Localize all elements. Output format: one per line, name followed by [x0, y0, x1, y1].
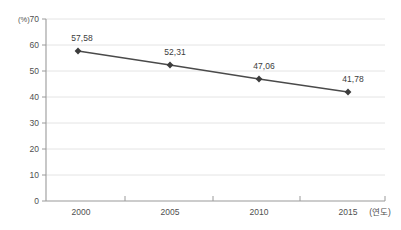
x-tick-label-2015: 2015 [339, 207, 358, 217]
line-chart: (%) 70 60 50 40 30 20 10 0 2000 2005 201… [0, 0, 401, 230]
y-tick-label-70: 70 [30, 14, 40, 24]
x-tick-label-2010: 2010 [250, 207, 269, 217]
chart-background [0, 0, 401, 230]
data-label-2005: 52,31 [164, 47, 186, 57]
y-tick-label-30: 30 [30, 118, 40, 128]
y-tick-label-40: 40 [30, 92, 40, 102]
y-tick-label-20: 20 [30, 144, 40, 154]
data-label-2015: 41,78 [342, 74, 364, 84]
data-label-2000: 57,58 [71, 33, 93, 43]
y-tick-label-10: 10 [30, 170, 40, 180]
x-tick-label-2000: 2000 [72, 207, 91, 217]
chart-canvas: (%) 70 60 50 40 30 20 10 0 2000 2005 201… [0, 0, 401, 230]
y-tick-label-60: 60 [30, 40, 40, 50]
data-label-2010: 47,06 [253, 61, 275, 71]
x-axis-unit-label: (연도) [369, 207, 391, 217]
y-axis-unit-label: (%) [18, 15, 30, 24]
x-tick-label-2005: 2005 [161, 207, 180, 217]
y-tick-label-0: 0 [34, 196, 39, 206]
y-tick-label-50: 50 [30, 66, 40, 76]
